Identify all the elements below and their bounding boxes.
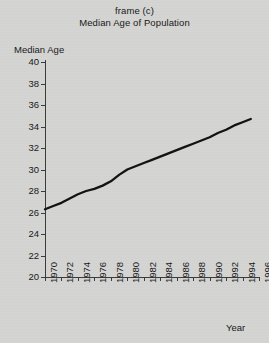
median-age-line bbox=[45, 119, 251, 209]
x-axis-tick bbox=[45, 277, 46, 281]
frame-label: frame (c) bbox=[0, 5, 269, 17]
y-axis-tick-label: 22 bbox=[28, 250, 39, 261]
x-axis-label: Year bbox=[226, 322, 245, 333]
y-axis-tick-label: 36 bbox=[28, 99, 39, 110]
y-axis-tick-label: 34 bbox=[28, 121, 39, 132]
x-axis-tick bbox=[127, 277, 128, 281]
x-axis-tick bbox=[226, 277, 227, 281]
chart-screenshot: frame (c) Median Age of Population Media… bbox=[0, 0, 269, 343]
x-axis-tick bbox=[193, 277, 194, 281]
y-axis-tick-label: 30 bbox=[28, 164, 39, 175]
x-axis-tick bbox=[177, 277, 178, 281]
x-axis-tick bbox=[61, 277, 62, 281]
x-axis-tick bbox=[210, 277, 211, 281]
y-axis-tick-label: 20 bbox=[28, 271, 39, 282]
chart-title-block: frame (c) Median Age of Population bbox=[0, 5, 269, 29]
x-axis-tick bbox=[111, 277, 112, 281]
chart-title: Median Age of Population bbox=[0, 17, 269, 29]
y-axis-tick-label: 26 bbox=[28, 207, 39, 218]
x-axis-tick bbox=[94, 277, 95, 281]
x-axis-tick bbox=[259, 277, 260, 281]
y-axis-tick-label: 28 bbox=[28, 185, 39, 196]
y-axis-tick-label: 24 bbox=[28, 228, 39, 239]
x-axis-tick bbox=[144, 277, 145, 281]
y-axis-tick-label: 38 bbox=[28, 78, 39, 89]
y-axis-label: Median Age bbox=[14, 44, 64, 55]
x-axis-tick bbox=[160, 277, 161, 281]
x-axis-tick bbox=[78, 277, 79, 281]
x-axis-tick-label: 1996 bbox=[263, 262, 269, 283]
y-axis-tick-label: 32 bbox=[28, 142, 39, 153]
series-plot-area bbox=[45, 62, 259, 277]
y-axis-tick-label: 40 bbox=[28, 56, 39, 67]
x-axis-tick bbox=[243, 277, 244, 281]
